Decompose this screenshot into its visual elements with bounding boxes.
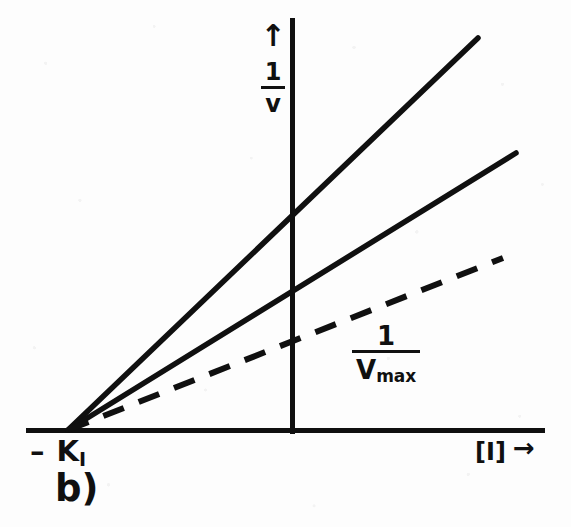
x-intercept-label-base: – K bbox=[30, 434, 80, 468]
x-intercept-label: – KI bbox=[30, 437, 88, 466]
vmax-denominator: Vmax bbox=[352, 355, 420, 388]
x-axis-arrow-icon: → bbox=[513, 433, 535, 463]
y-axis-label: ↑ 1 v bbox=[252, 22, 294, 117]
vmax-fraction: 1 Vmax bbox=[352, 324, 420, 388]
figure-panel-b: ↑ 1 v 1 Vmax – KI [I]→ b) bbox=[0, 0, 571, 527]
fraction-bar bbox=[261, 86, 286, 89]
y-axis-label-fraction: 1 v bbox=[261, 60, 286, 117]
series-line-shallow-dashed bbox=[68, 258, 503, 430]
y-axis-label-denominator: v bbox=[261, 91, 286, 117]
y-axis-arrow-icon: ↑ bbox=[252, 22, 294, 50]
y-axis-label-numerator: 1 bbox=[261, 60, 286, 84]
x-axis-label-text: [I] bbox=[475, 438, 506, 466]
vmax-denominator-base: V bbox=[356, 355, 376, 385]
vmax-annotation: 1 Vmax bbox=[352, 324, 420, 388]
vmax-numerator: 1 bbox=[352, 324, 420, 348]
panel-letter: b) bbox=[55, 470, 98, 507]
vmax-denominator-subscript: max bbox=[376, 366, 416, 386]
x-axis-label: [I]→ bbox=[475, 438, 535, 464]
